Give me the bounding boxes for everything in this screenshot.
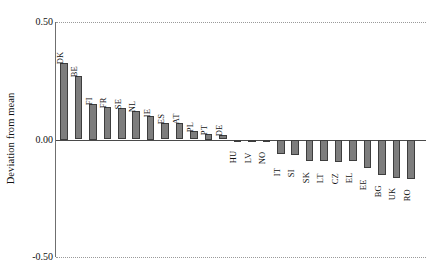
bar-category-label: BE: [70, 66, 79, 77]
bar-category-label: PT: [200, 125, 209, 135]
bar-group: CZ: [335, 22, 343, 257]
y-tick-label-0: 0.50: [13, 17, 53, 27]
bar: [89, 104, 97, 139]
bar-group: NL: [132, 22, 140, 257]
bar-category-label: IE: [142, 109, 151, 117]
bar: [277, 140, 285, 154]
bar: [132, 111, 140, 139]
bar: [234, 140, 242, 142]
bar-group: EL: [349, 22, 357, 257]
bar-category-label: PL: [186, 121, 195, 131]
bar-category-label: SE: [113, 99, 122, 109]
bar: [393, 140, 401, 179]
bar: [320, 140, 328, 162]
bar-group: PL: [190, 22, 198, 257]
bar-group: SI: [291, 22, 299, 257]
bar: [364, 140, 372, 168]
bar-group: SE: [118, 22, 126, 257]
bar-group: BE: [75, 22, 83, 257]
bar-group: PT: [205, 22, 213, 257]
bar: [161, 123, 169, 140]
bar-category-label: EL: [345, 172, 354, 183]
bar-category-label: NL: [128, 101, 137, 113]
gridline-lower: [56, 257, 426, 258]
bar-group: BG: [378, 22, 386, 257]
bar-category-label: SI: [287, 169, 296, 177]
bar-category-label: CZ: [330, 173, 339, 184]
bar-category-label: EE: [359, 179, 368, 190]
bar-category-label: RO: [402, 189, 411, 201]
bar-category-label: IT: [272, 167, 281, 175]
bar-group: HU: [234, 22, 242, 257]
bar-category-label: FR: [99, 97, 108, 108]
bar-group: LT: [320, 22, 328, 257]
bar-category-label: NO: [258, 151, 267, 164]
bar-group: FI: [89, 22, 97, 257]
bar: [263, 140, 271, 142]
bar: [104, 107, 112, 140]
bar: [75, 76, 83, 139]
bar-group: EE: [364, 22, 372, 257]
bar: [349, 140, 357, 161]
bar: [60, 63, 68, 139]
bar: [248, 140, 256, 142]
bar-category-label: DK: [55, 52, 64, 65]
bar: [118, 108, 126, 139]
bar-category-label: LV: [243, 153, 252, 164]
bar-category-label: ES: [157, 114, 166, 124]
bar-category-label: SK: [301, 172, 310, 183]
bar: [147, 116, 155, 140]
bar-group: FR: [104, 22, 112, 257]
bar-category-label: UK: [388, 188, 397, 201]
bar: [378, 140, 386, 175]
y-tick-label-2: -0.50: [13, 252, 53, 262]
bar-category-label: DE: [214, 124, 223, 136]
bar: [306, 140, 314, 161]
bar: [291, 140, 299, 155]
bar-group: IT: [277, 22, 285, 257]
bar-group: UK: [393, 22, 401, 257]
bar: [176, 123, 184, 139]
y-tick-label-1: 0.00: [13, 135, 53, 145]
bar-group: DE: [219, 22, 227, 257]
bar-group: SK: [306, 22, 314, 257]
bar: [335, 140, 343, 163]
bar-group: AT: [176, 22, 184, 257]
bar-series: DKBEFIFRSENLIEESATPLPTDEHULVNOITSISKLTCZ…: [56, 22, 426, 257]
plot-area: DKBEFIFRSENLIEESATPLPTDEHULVNOITSISKLTCZ…: [56, 22, 426, 257]
bar-category-label: HU: [229, 151, 238, 164]
bar-group: LV: [248, 22, 256, 257]
bar-group: NO: [263, 22, 271, 257]
bar-group: RO: [407, 22, 415, 257]
bar-category-label: BG: [373, 185, 382, 197]
bar-group: IE: [147, 22, 155, 257]
bar-group: ES: [161, 22, 169, 257]
bar: [407, 140, 415, 179]
bar-chart: Deviation from mean 0.50 0.00 -0.50 DKBE…: [0, 0, 434, 276]
bar-category-label: LT: [316, 173, 325, 183]
bar-group: DK: [60, 22, 68, 257]
bar-category-label: FI: [84, 98, 93, 106]
bar-category-label: AT: [171, 114, 180, 125]
